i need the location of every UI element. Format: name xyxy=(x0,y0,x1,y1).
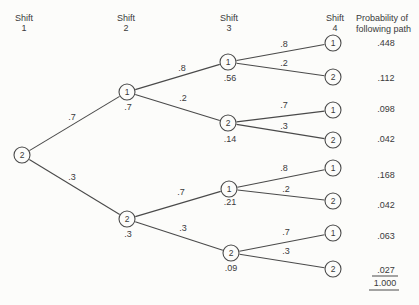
node-state-label: 2 xyxy=(331,264,336,274)
tree-canvas: .7.3.8.2.7.3.8.2.7.3.8.2.7.321.72.31.562… xyxy=(0,0,419,305)
edge-probability-label: .2 xyxy=(282,184,290,194)
path-probability-value: .027 xyxy=(377,265,395,275)
edge-probability-label: .2 xyxy=(179,93,187,103)
tree-edge-s1-2-s2-2 xyxy=(29,160,119,215)
edge-probability-label: .8 xyxy=(178,63,186,73)
path-probability-value: .063 xyxy=(377,231,395,241)
column-header-shift-2: Shift 2 xyxy=(104,13,148,33)
path-probability-value: .042 xyxy=(377,134,395,144)
edge-probability-label: .3 xyxy=(68,172,76,182)
node-state-label: 1 xyxy=(331,105,336,115)
column-header-shift-3: Shift 3 xyxy=(207,13,251,33)
edge-probability-label: .2 xyxy=(280,58,288,68)
path-probability-value: .448 xyxy=(377,38,395,48)
edge-probability-label: .7 xyxy=(177,187,185,197)
path-probability-value: .168 xyxy=(377,170,395,180)
edge-probability-label: .7 xyxy=(280,100,288,110)
edge-probability-label: .7 xyxy=(68,112,76,122)
node-state-label: 1 xyxy=(125,87,130,97)
path-probability-value: .042 xyxy=(377,200,395,210)
tree-edge-s1-2-s2-1 xyxy=(29,96,119,150)
edge-probability-label: .7 xyxy=(282,227,290,237)
column-header-number: 2 xyxy=(104,23,148,33)
column-header-label: Shift xyxy=(207,13,251,23)
node-state-label: 2 xyxy=(20,150,25,160)
node-state-label: 1 xyxy=(331,38,336,48)
column-header-label: Shift xyxy=(104,13,148,23)
node-cumulative-probability: .09 xyxy=(225,263,238,273)
tree-edge-s3-1b-s4-2c xyxy=(238,190,325,200)
node-cumulative-probability: .21 xyxy=(224,197,237,207)
node-state-label: 1 xyxy=(227,184,232,194)
path-probability-value: .098 xyxy=(377,104,395,114)
node-cumulative-probability: .3 xyxy=(124,229,132,239)
column-header-number: 4 xyxy=(313,23,357,33)
edge-probability-label: .3 xyxy=(280,121,288,131)
probability-header-line2: following path xyxy=(356,24,418,35)
total-probability: 1.000 xyxy=(374,278,397,288)
column-header-number: 1 xyxy=(2,23,46,33)
node-state-label: 1 xyxy=(331,163,336,173)
node-state-label: 2 xyxy=(331,72,336,82)
column-header-number: 3 xyxy=(207,23,251,33)
edge-probability-label: .8 xyxy=(280,39,288,49)
node-state-label: 2 xyxy=(226,118,231,128)
probability-tree-figure: .7.3.8.2.7.3.8.2.7.3.8.2.7.321.72.31.562… xyxy=(0,0,419,305)
column-header-shift-1: Shift 1 xyxy=(2,13,46,33)
node-state-label: 2 xyxy=(331,196,336,206)
node-cumulative-probability: .56 xyxy=(224,73,237,83)
node-state-label: 1 xyxy=(226,57,231,67)
edge-probability-label: .3 xyxy=(282,246,290,256)
node-cumulative-probability: .14 xyxy=(224,134,237,144)
tree-edge-s3-2b-s4-2d xyxy=(240,254,325,267)
node-state-label: 2 xyxy=(125,214,130,224)
probability-column-header: Probability of following path xyxy=(356,13,418,34)
column-header-shift-4: Shift 4 xyxy=(313,13,357,33)
edge-probability-label: .8 xyxy=(280,163,288,173)
column-header-label: Shift xyxy=(2,13,46,23)
node-state-label: 2 xyxy=(229,248,234,258)
node-state-label: 1 xyxy=(331,228,336,238)
node-state-label: 2 xyxy=(331,135,336,145)
column-header-label: Shift xyxy=(313,13,357,23)
node-cumulative-probability: .7 xyxy=(124,102,132,112)
probability-header-line1: Probability of xyxy=(356,13,418,24)
edge-probability-label: .3 xyxy=(179,223,187,233)
tree-edge-s2-1-s3-2a xyxy=(135,95,220,121)
path-probability-value: .112 xyxy=(378,73,395,83)
